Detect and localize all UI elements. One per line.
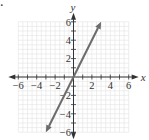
y-tick-label: 4 <box>66 35 72 46</box>
y-axis-label: y <box>70 1 76 13</box>
y-tick-label: 2 <box>66 53 71 64</box>
coordinate-plane-chart: xy −6−4−2246642−2−4−6 <box>0 0 149 140</box>
y-tick-label: −4 <box>60 109 72 120</box>
x-axis-label: x <box>140 71 146 83</box>
y-tick-label: 6 <box>66 17 71 28</box>
x-tick-label: 6 <box>126 80 131 91</box>
y-axis-up-arrow-icon <box>71 13 76 20</box>
y-axis-down-arrow-icon <box>71 132 76 139</box>
x-tick-label: −4 <box>31 80 43 91</box>
y-tick-label: −6 <box>60 127 71 138</box>
x-tick-label: 2 <box>89 80 94 91</box>
x-tick-label: 4 <box>108 80 114 91</box>
x-axis-right-arrow-icon <box>132 75 139 80</box>
x-tick-label: −6 <box>13 80 24 91</box>
x-axis-left-arrow-icon <box>8 75 15 80</box>
